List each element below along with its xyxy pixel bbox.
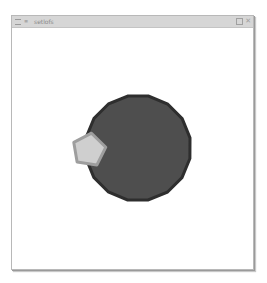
- scene-layer: [0, 0, 267, 283]
